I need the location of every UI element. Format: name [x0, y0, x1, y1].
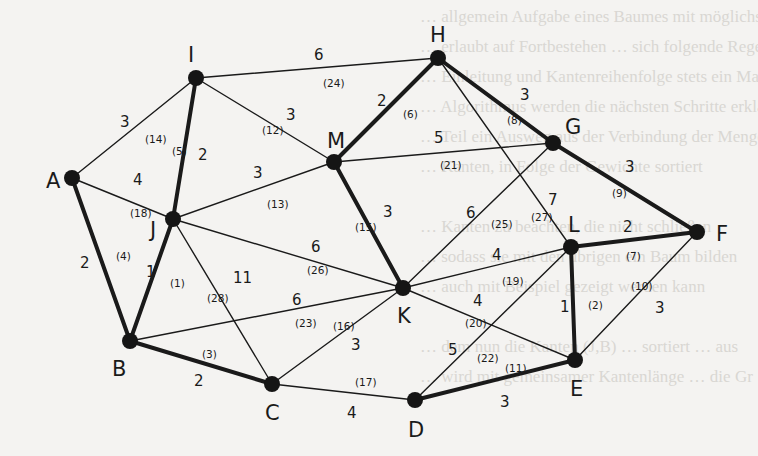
edge-order-M-H: (6) — [403, 108, 418, 120]
node-I — [188, 70, 204, 86]
node-J — [165, 211, 181, 227]
edge-weight-J-B: 1 — [146, 263, 156, 281]
edge-weight-A-I: 3 — [120, 113, 130, 131]
edge-weight-M-K: 3 — [383, 203, 393, 221]
node-label-J: J — [148, 218, 156, 242]
node-label-K: K — [397, 304, 412, 328]
edge-order-K-L: (19) — [502, 275, 524, 287]
edge-order-B-C: (3) — [202, 348, 217, 360]
edge-L-E — [571, 247, 575, 360]
edge-weight-K-L: 4 — [492, 246, 502, 264]
node-K — [395, 280, 411, 296]
edge-D-L — [415, 247, 571, 400]
edge-order-A-I: (14) — [145, 133, 167, 145]
edge-order-M-K: (15) — [355, 221, 377, 233]
edge-order-A-B: (4) — [116, 250, 131, 262]
node-M — [326, 154, 342, 170]
edge-order-E-F: (10) — [631, 280, 653, 292]
edge-B-K — [130, 288, 403, 341]
edge-weight-K-G: 6 — [466, 204, 476, 222]
edge-order-B-K: (23) — [295, 317, 317, 329]
edge-weight-D-E: 3 — [500, 393, 510, 411]
edge-order-L-F: (7) — [626, 250, 641, 262]
edge-C-D — [272, 384, 415, 400]
edge-order-J-C: (28) — [207, 292, 229, 304]
node-label-L: L — [568, 213, 580, 237]
node-label-C: C — [265, 401, 280, 425]
edge-D-E — [415, 360, 575, 400]
node-F — [689, 224, 705, 240]
edge-weight-K-E: 4 — [473, 292, 483, 310]
edge-order-H-L: (27) — [531, 211, 553, 223]
graph-canvas: 1(1)1(2)2(3)2(4)2(5)2(6)2(7)3(8)3(9)3(10… — [0, 0, 758, 456]
edge-order-J-K: (26) — [307, 264, 329, 276]
edge-order-D-E: (11) — [505, 362, 527, 374]
edge-order-K-E: (20) — [465, 317, 487, 329]
edge-weight-A-B: 2 — [80, 254, 90, 272]
edge-weight-I-J: 2 — [198, 146, 208, 164]
edge-order-C-K: (16) — [333, 320, 355, 332]
edge-order-K-G: (25) — [491, 218, 513, 230]
graph-diagram: … allgemein Aufgabe eines Baumes mit mög… — [0, 0, 758, 456]
edge-weight-J-M: 3 — [253, 164, 263, 182]
edge-weight-L-F: 2 — [623, 218, 633, 236]
edge-weight-I-H: 6 — [314, 46, 324, 64]
node-label-I: I — [188, 43, 194, 67]
edge-M-H — [334, 58, 438, 162]
edge-order-M-G: (21) — [440, 159, 462, 171]
edge-weight-M-H: 2 — [377, 92, 387, 110]
edge-weight-J-K: 6 — [311, 238, 321, 256]
edge-weight-C-K: 3 — [351, 336, 361, 354]
edge-weight-I-M: 3 — [286, 106, 296, 124]
node-C — [264, 376, 280, 392]
edge-weight-D-L: 5 — [448, 341, 458, 359]
edge-order-H-G: (8) — [507, 114, 522, 126]
node-H — [430, 50, 446, 66]
edge-weight-J-C: 11 — [233, 269, 252, 287]
node-label-B: B — [112, 357, 126, 381]
node-A — [64, 170, 80, 186]
edge-order-C-D: (17) — [355, 376, 377, 388]
edge-weight-H-L: 7 — [548, 191, 558, 209]
node-label-A: A — [46, 169, 61, 193]
edge-K-E — [403, 288, 575, 360]
edge-A-I — [72, 78, 196, 178]
edge-order-I-M: (12) — [262, 124, 284, 136]
node-label-F: F — [716, 222, 728, 246]
edge-order-J-B: (1) — [170, 277, 185, 289]
edge-order-G-F: (9) — [612, 187, 627, 199]
edge-weight-E-F: 3 — [655, 299, 665, 317]
node-E — [567, 352, 583, 368]
edge-weight-C-D: 4 — [347, 404, 357, 422]
edge-order-I-H: (24) — [323, 77, 345, 89]
node-label-M: M — [327, 129, 345, 153]
node-B — [122, 333, 138, 349]
edge-weight-B-K: 6 — [292, 291, 302, 309]
edge-order-J-M: (13) — [267, 198, 289, 210]
edge-order-I-J: (5) — [172, 145, 187, 157]
edge-weight-H-G: 3 — [520, 86, 530, 104]
node-D — [407, 392, 423, 408]
edge-order-D-L: (22) — [477, 352, 499, 364]
edge-weight-G-F: 3 — [625, 158, 635, 176]
node-label-G: G — [565, 115, 581, 139]
edge-weight-A-J: 4 — [133, 171, 143, 189]
edge-I-M — [196, 78, 334, 162]
node-label-E: E — [570, 377, 583, 401]
edge-A-J — [72, 178, 173, 219]
edge-H-G — [438, 58, 553, 143]
node-L — [563, 239, 579, 255]
edge-weight-L-E: 1 — [560, 298, 570, 316]
node-label-D: D — [408, 418, 424, 442]
edge-K-L — [403, 247, 571, 288]
node-G — [545, 135, 561, 151]
node-label-H: H — [430, 23, 446, 47]
edge-order-A-J: (18) — [130, 207, 152, 219]
edge-order-L-E: (2) — [588, 299, 603, 311]
edge-weight-B-C: 2 — [194, 372, 204, 390]
edge-weight-M-G: 5 — [434, 129, 444, 147]
edge-L-F — [571, 232, 697, 247]
